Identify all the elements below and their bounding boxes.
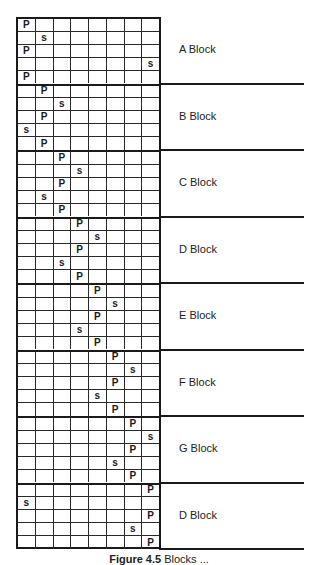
grid-cell [125,485,143,497]
grid-cell: s [142,58,159,70]
grid-cell: s [89,231,107,243]
grid-cell [71,377,89,389]
grid-cell: s [107,298,125,310]
grid-cell [36,377,54,389]
grid-cell [36,298,54,310]
grid-cell [107,124,125,136]
grid-cell [142,191,159,203]
figure-caption: Figure 4.5 Blocks ... [0,553,318,565]
grid-cell [71,337,89,350]
block-label: G Block [179,442,218,454]
caption-prefix: Figure 4.5 [109,553,161,565]
grid-cell [54,470,72,483]
grid-cell [107,32,125,44]
grid-cell [36,219,54,231]
grid-row: P [18,111,159,124]
grid-cell [89,137,107,150]
grid-cell [142,71,159,84]
grid-cell [89,497,107,509]
grid-cell [54,124,72,136]
grid-cell [142,418,159,430]
grid-cell [54,298,72,310]
grid-cell [142,497,159,509]
grid-row: s [18,497,159,510]
grid-cell [107,523,125,535]
grid-cell [89,32,107,44]
grid-cell [18,444,36,456]
block-label: F Block [179,376,216,388]
grid-cell [71,86,89,98]
grid-cell [71,352,89,364]
grid-cell [18,403,36,416]
grid-cell [107,536,125,549]
grid-cell [107,285,125,297]
grid-cell [89,98,107,110]
grid-cell [71,98,89,110]
grid-cell: P [71,244,89,256]
grid-row: s [18,364,159,377]
grid-cell [18,165,36,177]
block-separator-line [159,83,304,85]
grid-cell [18,457,36,469]
grid-row: P [18,285,159,298]
grid-cell: s [36,191,54,203]
grid-cell [107,257,125,269]
grid-cell [142,98,159,110]
grid-cell [71,298,89,310]
grid-cell: P [125,418,143,430]
grid-cell [89,510,107,522]
grid-cell [36,523,54,535]
grid-cell [54,418,72,430]
grid-cell [125,111,143,123]
grid-cell [36,257,54,269]
grid-row: s [18,298,159,311]
grid-cell [125,231,143,243]
grid-cell [18,352,36,364]
grid-cell [125,32,143,44]
grid-cell [71,510,89,522]
grid-cell [36,337,54,350]
grid-cell [54,377,72,389]
grid-cell [71,45,89,57]
grid-cell: P [107,352,125,364]
grid-row: P [18,418,159,431]
grid-cell [36,418,54,430]
grid-cell [107,324,125,336]
grid-cell [36,165,54,177]
grid-cell [142,457,159,469]
grid-cell [54,165,72,177]
grid-cell [142,231,159,243]
grid-cell [54,536,72,549]
grid-cell [18,32,36,44]
grid-cell [89,364,107,376]
block-label: D Block [179,243,217,255]
grid-cell [18,137,36,150]
grid-cell [142,298,159,310]
grid-cell [54,19,72,31]
grid-cell [71,390,89,402]
grid-cell [18,536,36,549]
grid-cell [71,58,89,70]
block-label: D Block [179,509,217,521]
grid-cell [142,285,159,297]
grid-cell [142,244,159,256]
grid-cell [125,270,143,283]
grid-row: P [18,510,159,523]
grid-cell [89,58,107,70]
grid-row: P [18,444,159,457]
grid-cell [107,311,125,323]
grid-cell [54,510,72,522]
grid-cell [107,244,125,256]
grid-row: P [18,137,159,150]
block-separator-line [159,149,304,151]
grid-cell [125,311,143,323]
grid-cell [142,32,159,44]
grid-cell [89,45,107,57]
grid-cell [18,390,36,402]
grid-cell [142,111,159,123]
grid-cell [142,470,159,483]
grid-cell [54,111,72,123]
grid-cell [107,165,125,177]
grid-cell [89,124,107,136]
grid-cell [125,497,143,509]
